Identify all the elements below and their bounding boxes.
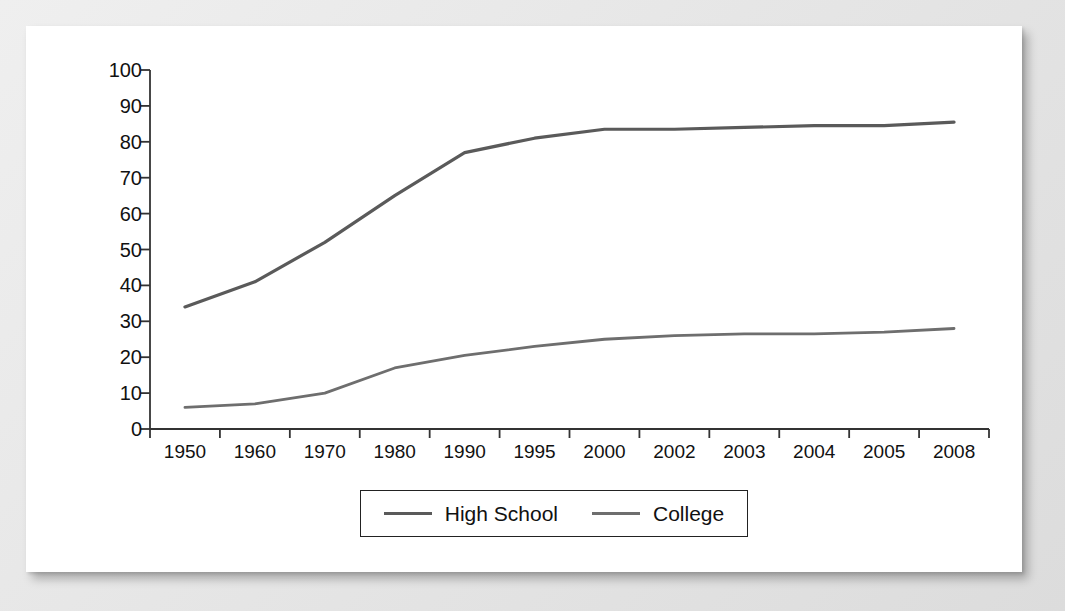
x-axis-tick-label: 2003 [709,442,779,476]
data-line-high-school [185,122,954,307]
x-axis-tick-label: 1960 [220,442,290,476]
page-root: 0102030405060708090100 19501960197019801… [0,0,1065,611]
x-axis-tick-label: 2004 [779,442,849,476]
y-axis-tick-label: 90 [96,96,142,116]
x-axis-ticks [150,429,989,438]
chart-card: 0102030405060708090100 19501960197019801… [26,26,1022,572]
legend-label: High School [445,503,558,524]
legend-label: College [653,503,724,524]
x-axis-tick-label: 2005 [849,442,919,476]
y-axis-tick-label: 30 [96,311,142,331]
y-axis-tick-label: 40 [96,275,142,295]
y-axis-tick-label: 50 [96,240,142,260]
x-axis-tick-label: 1995 [500,442,570,476]
legend-item-college[interactable]: College [592,503,724,524]
y-axis-tick-label: 10 [96,383,142,403]
x-axis-tick-label: 2000 [570,442,640,476]
y-axis-tick-label: 70 [96,168,142,188]
data-line-college [185,328,954,407]
chart-legend: High SchoolCollege [360,490,748,537]
y-axis-tick-labels: 0102030405060708090100 [88,26,142,572]
y-axis-tick-label: 80 [96,132,142,152]
x-axis-tick-label: 2002 [639,442,709,476]
x-axis-tick-label: 1980 [360,442,430,476]
data-series-group [185,122,954,407]
legend-item-high-school[interactable]: High School [384,503,558,524]
line-swatch-college-icon [592,512,640,516]
y-axis-ticks [141,70,150,429]
y-axis-tick-label: 20 [96,347,142,367]
y-axis-tick-label: 100 [96,60,142,80]
x-axis-tick-label: 1990 [430,442,500,476]
x-axis-tick-labels: 1950196019701980199019952000200220032004… [150,442,989,476]
x-axis-tick-label: 1970 [290,442,360,476]
plot-area: 0102030405060708090100 19501960197019801… [26,26,1022,572]
line-swatch-high-school-icon [384,512,432,515]
x-axis-tick-label: 2008 [919,442,989,476]
y-axis-tick-label: 0 [96,419,142,439]
x-axis-tick-label: 1950 [150,442,220,476]
y-axis-tick-label: 60 [96,204,142,224]
